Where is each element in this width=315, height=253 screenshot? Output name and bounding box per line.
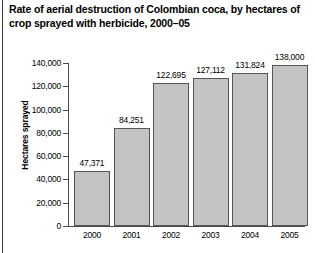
bar-slot: 131,8242004 — [232, 63, 268, 226]
y-axis-tick-label: 40,000 — [36, 174, 61, 184]
x-axis-tick-label: 2001 — [122, 230, 140, 240]
page-edge-rule — [2, 0, 3, 253]
y-axis-tick-label: 100,000 — [32, 105, 61, 115]
y-axis-tick-label: 60,000 — [36, 151, 61, 161]
bar — [153, 83, 189, 226]
y-axis-tick-mark — [63, 110, 68, 111]
y-axis-tick-label: 20,000 — [36, 198, 61, 208]
bar-slot: 47,3712000 — [74, 63, 110, 226]
y-axis-tick-mark — [63, 203, 68, 204]
bar-slot: 127,1122003 — [193, 63, 229, 226]
y-axis-tick-mark — [63, 156, 68, 157]
y-axis-tick-mark — [63, 63, 68, 64]
bar-value-label: 122,695 — [156, 70, 185, 80]
y-axis-title: Hectares sprayed — [20, 80, 30, 190]
bar — [114, 128, 150, 226]
y-axis-tick-label: 80,000 — [36, 128, 61, 138]
bar — [74, 171, 110, 226]
x-axis-tick-label: 2002 — [162, 230, 180, 240]
y-axis-line — [68, 63, 69, 226]
bar-slot: 84,2512001 — [114, 63, 150, 226]
y-axis-tick-mark — [63, 226, 68, 227]
bar — [232, 73, 268, 226]
y-axis-tick-label: 140,000 — [32, 58, 61, 68]
x-axis-line — [68, 226, 305, 227]
x-axis-tick-label: 2003 — [201, 230, 219, 240]
y-axis-tick-mark — [63, 133, 68, 134]
bar-slot: 122,6952002 — [153, 63, 189, 226]
x-axis-tick-label: 2004 — [241, 230, 259, 240]
bar-value-label: 84,251 — [119, 115, 144, 125]
bar-value-label: 138,000 — [275, 52, 304, 62]
y-axis-tick-mark — [63, 86, 68, 87]
x-axis-tick-label: 2005 — [280, 230, 298, 240]
bar — [272, 65, 308, 226]
bar-value-label: 127,112 — [196, 65, 225, 75]
plot-area: 020,00040,00060,00080,000100,000120,0001… — [68, 63, 305, 226]
y-axis-tick-label: 120,000 — [32, 81, 61, 91]
chart-title: Rate of aerial destruction of Colombian … — [9, 3, 309, 30]
bar-value-label: 47,371 — [80, 158, 105, 168]
bar-slot: 138,0002005 — [272, 63, 308, 226]
x-axis-tick-label: 2000 — [83, 230, 101, 240]
y-axis-tick-mark — [63, 179, 68, 180]
y-axis-tick-label: 0 — [56, 221, 61, 231]
bar-value-label: 131,824 — [235, 60, 264, 70]
bar — [193, 78, 229, 226]
